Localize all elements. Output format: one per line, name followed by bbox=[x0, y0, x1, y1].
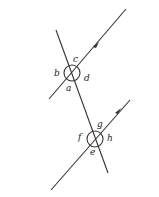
parallel-arrow-icon-upper bbox=[93, 42, 99, 48]
angle-label-b: b bbox=[54, 68, 60, 78]
angle-label-a: a bbox=[66, 83, 71, 93]
angle-label-c: c bbox=[73, 54, 78, 64]
angle-label-e: e bbox=[90, 147, 95, 157]
angle-label-d: d bbox=[84, 73, 90, 83]
angle-label-g: g bbox=[97, 119, 103, 129]
diagram-canvas: c b d a g f h e bbox=[0, 0, 159, 197]
angle-label-f: f bbox=[77, 132, 83, 142]
parallel-line-upper bbox=[49, 9, 126, 99]
transversal-line bbox=[56, 30, 108, 173]
angle-label-h: h bbox=[107, 133, 113, 143]
parallel-lines-diagram: c b d a g f h e bbox=[0, 0, 159, 197]
angle-circle-lower bbox=[87, 131, 103, 147]
